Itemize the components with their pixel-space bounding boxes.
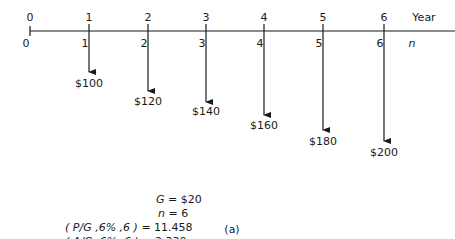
year-tick-label: 2 [145,12,152,24]
figure-caption: (a) [224,224,239,236]
n-tick-label: 3 [199,38,206,50]
year-tick-label: 3 [203,12,210,24]
cash-flow-amount: $160 [250,120,278,132]
year-tick-label: 6 [381,12,388,24]
year-axis-label: Year [412,12,435,24]
n-tick-label: 1 [82,38,89,50]
n-tick-label: 5 [316,38,323,50]
time-axis [0,0,455,239]
cash-flow-amount: $120 [134,96,162,108]
cash-flow-amount: $140 [192,106,220,118]
n-tick-label: 0 [23,38,30,50]
equation-AG: ( A/G ,6% ,6 ) = 2.330 [51,224,187,239]
n-tick-label: 4 [257,38,264,50]
cash-flow-amount: $180 [309,136,337,148]
n-tick-label: 6 [377,38,384,50]
cash-flow-diagram: Year n 0011$10022$12033$14044$16055$1806… [0,0,455,239]
year-tick-label: 5 [320,12,327,24]
year-tick-label: 0 [27,12,34,24]
year-tick-label: 1 [86,12,93,24]
n-tick-label: 2 [141,38,148,50]
n-axis-label: n [409,38,416,50]
year-tick-label: 4 [261,12,268,24]
cash-flow-amount: $100 [75,78,103,90]
cash-flow-amount: $200 [370,147,398,159]
